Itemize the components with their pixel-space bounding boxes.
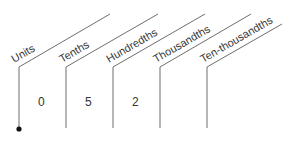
units-label: Units [9, 42, 37, 65]
units-digit: 0 [38, 95, 45, 109]
decimal-point-dot [16, 126, 21, 131]
column-thousandths: Thousandths [151, 14, 251, 128]
place-value-diagram: Units 0 Tenths 5 Hundredths 2 Thousandth… [0, 0, 296, 142]
column-units: Units 0 [9, 14, 110, 128]
hundredths-digit: 2 [132, 95, 139, 109]
ten-thousandths-label: Ten-thousandths [198, 13, 275, 64]
tenths-digit: 5 [85, 95, 92, 109]
